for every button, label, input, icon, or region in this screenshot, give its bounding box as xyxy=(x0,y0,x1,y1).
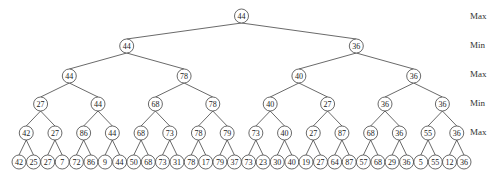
svg-text:36: 36 xyxy=(438,100,446,109)
svg-text:40: 40 xyxy=(288,158,296,167)
leaf-node: 50 xyxy=(127,155,141,169)
svg-text:27: 27 xyxy=(324,100,332,109)
tree-edge xyxy=(256,140,263,155)
tree-edge xyxy=(442,111,456,126)
leaf-node: 27 xyxy=(41,155,55,169)
leaf-node: 57 xyxy=(356,155,370,169)
tree-edge xyxy=(105,140,112,155)
tree-node: 44 xyxy=(120,39,134,53)
svg-text:57: 57 xyxy=(359,158,367,167)
tree-edge xyxy=(19,140,26,155)
svg-text:68: 68 xyxy=(137,129,145,138)
tree-edge xyxy=(313,111,327,126)
svg-text:64: 64 xyxy=(331,158,339,167)
tree-node: 36 xyxy=(450,126,464,140)
svg-text:36: 36 xyxy=(403,158,411,167)
svg-text:86: 86 xyxy=(87,158,95,167)
tree-node: 36 xyxy=(407,69,421,83)
tree-edge xyxy=(299,53,356,69)
leaf-node: 79 xyxy=(213,155,227,169)
leaf-node: 68 xyxy=(371,155,385,169)
tree-edge xyxy=(191,140,198,155)
svg-text:73: 73 xyxy=(166,129,174,138)
leaf-node: 64 xyxy=(328,155,342,169)
tree-node: 79 xyxy=(220,126,234,140)
tree-edge xyxy=(26,140,33,155)
svg-text:27: 27 xyxy=(51,129,59,138)
leaf-node: 9 xyxy=(98,155,112,169)
tree-edge xyxy=(155,83,184,97)
tree-edge xyxy=(184,83,213,97)
leaf-node: 73 xyxy=(156,155,170,169)
svg-text:25: 25 xyxy=(30,158,38,167)
svg-text:30: 30 xyxy=(273,158,281,167)
tree-edge xyxy=(450,140,457,155)
tree-node: 86 xyxy=(77,126,91,140)
svg-text:9: 9 xyxy=(103,158,107,167)
tree-node: 78 xyxy=(177,69,191,83)
svg-text:79: 79 xyxy=(223,129,231,138)
leaf-node: 37 xyxy=(227,155,241,169)
tree-node: 44 xyxy=(62,69,76,83)
tree-edge xyxy=(48,140,55,155)
svg-text:68: 68 xyxy=(374,158,382,167)
leaf-node: 68 xyxy=(141,155,155,169)
tree-edge xyxy=(84,111,98,126)
tree-edge xyxy=(342,140,349,155)
leaf-node: 78 xyxy=(184,155,198,169)
svg-text:27: 27 xyxy=(44,158,52,167)
svg-text:40: 40 xyxy=(295,72,303,81)
tree-node: 36 xyxy=(349,39,363,53)
svg-text:29: 29 xyxy=(388,158,396,167)
svg-text:7: 7 xyxy=(60,158,64,167)
tree-edge xyxy=(428,140,435,155)
leaf-node: 55 xyxy=(428,155,442,169)
leaf-node: 19 xyxy=(299,155,313,169)
svg-text:17: 17 xyxy=(202,158,210,167)
svg-text:78: 78 xyxy=(180,72,188,81)
svg-text:31: 31 xyxy=(173,158,181,167)
tree-node: 44 xyxy=(91,97,105,111)
svg-text:36: 36 xyxy=(381,100,389,109)
tree-edge xyxy=(213,111,227,126)
leaf-node: 29 xyxy=(385,155,399,169)
svg-text:36: 36 xyxy=(460,158,468,167)
svg-text:27: 27 xyxy=(309,129,317,138)
tree-edge xyxy=(170,140,177,155)
tree-edge xyxy=(335,140,342,155)
svg-text:68: 68 xyxy=(367,129,375,138)
tree-node: 36 xyxy=(435,97,449,111)
tree-edge xyxy=(141,140,148,155)
tree-edge xyxy=(363,140,370,155)
tree-edge xyxy=(285,140,292,155)
tree-edge xyxy=(392,140,399,155)
svg-text:87: 87 xyxy=(345,158,353,167)
tree-edge xyxy=(399,140,406,155)
svg-text:44: 44 xyxy=(238,12,246,21)
tree-edge xyxy=(112,140,119,155)
svg-text:23: 23 xyxy=(259,158,267,167)
svg-text:42: 42 xyxy=(22,129,30,138)
leaf-node: 12 xyxy=(443,155,457,169)
level-label-0: Max xyxy=(470,11,487,21)
svg-text:5: 5 xyxy=(419,158,423,167)
tree-node: 40 xyxy=(263,97,277,111)
leaf-node: 44 xyxy=(113,155,127,169)
svg-text:36: 36 xyxy=(395,129,403,138)
tree-node: 73 xyxy=(249,126,263,140)
svg-text:86: 86 xyxy=(80,129,88,138)
svg-text:79: 79 xyxy=(216,158,224,167)
tree-edge xyxy=(26,111,40,126)
svg-text:36: 36 xyxy=(352,42,360,51)
leaf-node: 17 xyxy=(199,155,213,169)
tree-edge xyxy=(457,140,464,155)
leaf-node: 5 xyxy=(414,155,428,169)
tree-node: 27 xyxy=(48,126,62,140)
leaf-node: 23 xyxy=(256,155,270,169)
leaf-node: 40 xyxy=(285,155,299,169)
tree-edge xyxy=(414,83,443,97)
leaf-node: 30 xyxy=(270,155,284,169)
svg-text:44: 44 xyxy=(94,100,102,109)
tree-edge xyxy=(385,83,414,97)
tree-edge xyxy=(163,140,170,155)
